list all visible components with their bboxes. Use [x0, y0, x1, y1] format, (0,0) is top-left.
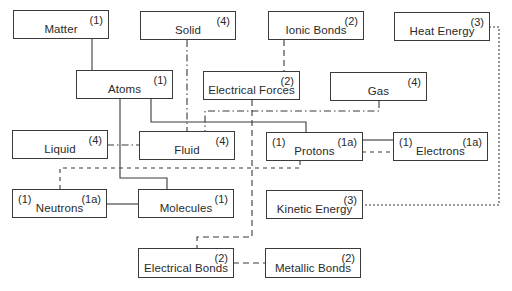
- node-label: Fluid: [140, 144, 234, 156]
- node-label: Neutrons: [13, 202, 106, 214]
- node-atoms: (1) Atoms: [76, 70, 173, 99]
- node-label: Molecules: [139, 202, 233, 214]
- edge-atoms-protons: [151, 99, 306, 132]
- node-matter: (1) Matter: [13, 10, 109, 39]
- node-label: Electrical Bonds: [139, 262, 233, 274]
- node-label: Ionic Bonds: [269, 24, 363, 36]
- node-label: Electrical Forces: [204, 84, 299, 96]
- node-electrical-forces: (2) Electrical Forces: [203, 71, 300, 100]
- node-molecules: (1) Molecules: [138, 189, 234, 218]
- node-fluid: (4) Fluid: [139, 131, 235, 160]
- node-label: Metallic Bonds: [266, 262, 360, 274]
- node-solid: (4) Solid: [140, 11, 236, 40]
- node-metallic-bonds: (2) Metallic Bonds: [265, 248, 361, 278]
- node-label: Protons: [267, 145, 362, 157]
- edge-heat-kinetic-energy: [362, 27, 499, 205]
- node-protons: (1) (1a) Protons: [266, 132, 363, 161]
- node-label: Kinetic Energy: [267, 203, 362, 215]
- node-label: Gas: [331, 85, 426, 97]
- node-liquid: (4) Liquid: [12, 130, 108, 159]
- node-electrons: (1) (1a) Electrons: [393, 132, 488, 161]
- edge-neutrons-protons: [60, 161, 300, 189]
- edge-gas-fluid: [205, 101, 379, 131]
- node-kinetic-energy: (3) Kinetic Energy: [266, 190, 363, 219]
- node-ionic-bonds: (2) Ionic Bonds: [268, 11, 364, 40]
- node-heat-energy: (3) Heat Energy: [394, 12, 490, 41]
- node-label: Solid: [141, 24, 235, 36]
- node-gas: (4) Gas: [330, 72, 427, 101]
- node-label: Atoms: [77, 83, 172, 95]
- node-electrical-bonds: (2) Electrical Bonds: [138, 248, 234, 278]
- node-label: Liquid: [13, 143, 107, 155]
- node-label: Heat Energy: [395, 25, 489, 37]
- node-neutrons: (1) (1a) Neutrons: [12, 189, 107, 218]
- node-label: Matter: [14, 23, 108, 35]
- node-label: Electrons: [394, 145, 487, 157]
